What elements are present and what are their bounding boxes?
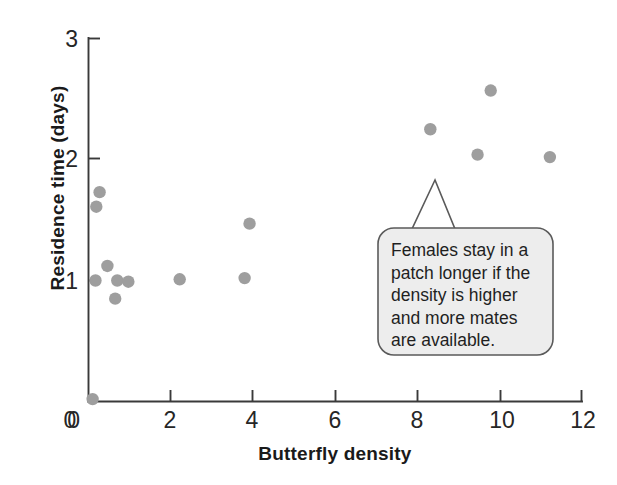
x-tick-marks <box>171 390 582 402</box>
x-tick-labels: 0 2 4 6 8 10 12 <box>64 407 596 433</box>
callout-text-line: and more mates <box>391 308 518 328</box>
x-tick-label-0: 0 <box>64 407 77 433</box>
y-tick-marks <box>89 39 101 281</box>
data-point <box>89 274 101 286</box>
data-point <box>111 274 123 286</box>
data-point <box>122 276 134 288</box>
data-point <box>93 186 105 198</box>
x-tick-label-12: 12 <box>570 407 596 433</box>
y-tick-label-3: 3 <box>65 26 78 52</box>
data-point <box>471 148 483 160</box>
x-tick-label-4: 4 <box>246 407 259 433</box>
data-point <box>86 393 98 405</box>
callout-text-line: Females stay in a <box>391 240 528 260</box>
callout-tail <box>412 180 455 229</box>
data-point <box>109 292 121 304</box>
data-point <box>485 84 497 96</box>
data-point <box>174 273 186 285</box>
callout-bubble: Females stay in apatch longer if thedens… <box>378 180 553 355</box>
data-point <box>544 151 556 163</box>
data-point <box>238 272 250 284</box>
callout-text-line: density is higher <box>391 285 518 305</box>
data-point <box>90 200 102 212</box>
y-tick-label-2: 2 <box>65 146 78 172</box>
x-tick-label-2: 2 <box>164 407 177 433</box>
callout-text-line: are available. <box>391 330 495 350</box>
x-tick-label-6: 6 <box>329 407 342 433</box>
y-tick-label-1: 1 <box>65 268 78 294</box>
data-point <box>243 217 255 229</box>
x-tick-label-8: 8 <box>411 407 424 433</box>
x-tick-label-10: 10 <box>489 407 515 433</box>
y-tick-labels: 3 2 1 0 <box>65 26 80 433</box>
callout-text-line: patch longer if the <box>391 263 530 283</box>
data-point <box>424 123 436 135</box>
data-point <box>101 260 113 272</box>
scatter-chart-figure: Residence time (days) Butterfly density … <box>0 0 617 485</box>
plot-area: 3 2 1 0 0 2 4 6 8 10 12 Females stay in … <box>0 0 617 485</box>
